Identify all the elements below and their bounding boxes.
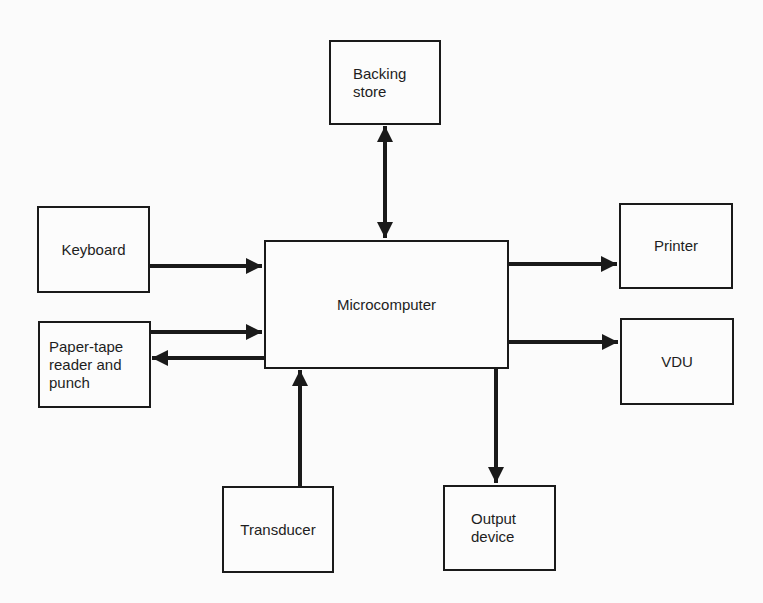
printer-block: Printer [619,203,733,289]
microcomputer-label: Microcomputer [337,296,436,314]
vdu-block: VDU [620,318,734,405]
paper-tape-label: Paper-tape reader and punch [49,338,123,392]
keyboard-label: Keyboard [61,241,125,259]
backing-store-block: Backing store [329,40,441,125]
microcomputer-block: Microcomputer [264,240,509,369]
output-device-block: Output device [443,485,556,571]
printer-label: Printer [654,237,698,255]
output-device-label: Output device [471,510,516,546]
keyboard-block: Keyboard [37,206,150,293]
transducer-block: Transducer [222,486,334,573]
paper-tape-block: Paper-tape reader and punch [38,321,151,408]
vdu-label: VDU [661,353,693,371]
transducer-label: Transducer [240,521,315,539]
backing-store-label: Backing store [353,65,406,101]
